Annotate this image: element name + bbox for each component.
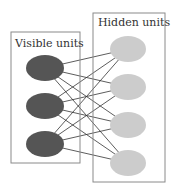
rbm-diagram: Visible units Hidden units bbox=[0, 0, 176, 192]
visible-unit-node bbox=[26, 131, 64, 157]
visible-layer-label: Visible units bbox=[14, 37, 84, 50]
hidden-unit-node bbox=[110, 74, 146, 100]
visible-unit-node bbox=[26, 55, 64, 81]
hidden-unit-node bbox=[110, 112, 146, 138]
visible-unit-node bbox=[26, 93, 64, 119]
hidden-units bbox=[110, 36, 146, 176]
hidden-layer-label: Hidden units bbox=[98, 16, 170, 29]
hidden-unit-node bbox=[110, 150, 146, 176]
visible-units bbox=[26, 55, 64, 157]
hidden-unit-node bbox=[110, 36, 146, 62]
